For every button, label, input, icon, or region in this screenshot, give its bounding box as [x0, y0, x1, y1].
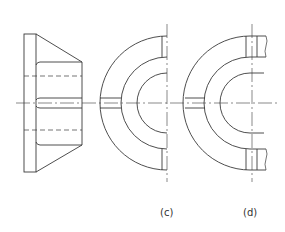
bore-top-line: [36, 62, 82, 65]
rib-top-line: [36, 98, 82, 100]
middle-arc: [204, 57, 266, 149]
break-line-top: [265, 36, 267, 57]
bore-bottom-line: [36, 142, 82, 145]
rib-bottom-line: [36, 106, 82, 108]
drawing-canvas: [0, 0, 285, 232]
view-c-label: (c): [160, 207, 173, 218]
view-d-label: (d): [243, 207, 257, 218]
break-line-bottom: [265, 149, 267, 170]
